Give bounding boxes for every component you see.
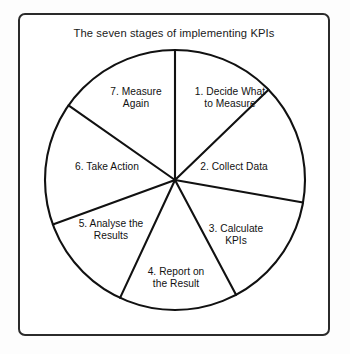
slice-label-1: 1. Decide What to Measure — [182, 86, 278, 111]
slice-label-4: 4. Report on the Result — [131, 266, 221, 291]
slice-label-2: 2. Collect Data — [186, 161, 282, 173]
slice-label-7: 7. Measure Again — [90, 86, 182, 111]
slice-label-5-line2: Results — [62, 230, 160, 242]
slice-label-5: 5. Analyse the Results — [62, 218, 160, 243]
slice-label-3-line2: KPIs — [192, 235, 280, 247]
slice-label-2-line1: 2. Collect Data — [186, 161, 282, 173]
slice-label-4-line1: 4. Report on — [131, 266, 221, 278]
kpi-wheel-figure: The seven stages of implementing KPIs 1.… — [0, 0, 350, 354]
slice-label-3-line1: 3. Calculate — [192, 223, 280, 235]
slice-label-5-line1: 5. Analyse the — [62, 218, 160, 230]
slice-label-3: 3. Calculate KPIs — [192, 223, 280, 248]
pie-wheel-diagram — [0, 0, 350, 354]
slice-label-1-line1: 1. Decide What — [182, 86, 278, 98]
slice-label-7-line1: 7. Measure — [90, 86, 182, 98]
slice-label-4-line2: the Result — [131, 278, 221, 290]
slice-label-7-line2: Again — [90, 98, 182, 110]
slice-label-6: 6. Take Action — [58, 161, 156, 173]
slice-label-6-line1: 6. Take Action — [58, 161, 156, 173]
slice-label-1-line2: to Measure — [182, 98, 278, 110]
